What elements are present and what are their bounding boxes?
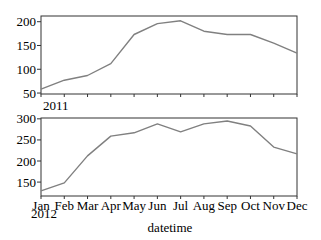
- x-tick-label: Mar: [77, 198, 99, 213]
- x-tick-label: May: [122, 198, 146, 213]
- y-tick-label: 150: [17, 175, 37, 190]
- y-tick-label: 300: [17, 111, 37, 126]
- plot-frame: [41, 118, 297, 196]
- y-tick-label: 100: [17, 62, 37, 77]
- x-tick-label: Feb: [55, 198, 75, 213]
- x-tick-label: Aug: [193, 198, 216, 213]
- x-tick-label: Oct: [241, 198, 260, 213]
- x-tick-label: Jul: [173, 198, 189, 213]
- y-tick-label: 150: [17, 38, 37, 53]
- data-series-line: [41, 121, 297, 191]
- x-tick-label: Nov: [263, 198, 286, 213]
- y-tick-label: 250: [17, 132, 37, 147]
- x-tick-label: Sep: [217, 198, 237, 213]
- year-label-2011: 2011: [43, 98, 69, 113]
- x-tick-label: Apr: [101, 198, 122, 213]
- y-tick-label: 200: [17, 14, 37, 29]
- year-label-2012: 2012: [31, 206, 57, 221]
- plot-frame: [41, 16, 297, 94]
- x-axis-title: datetime: [148, 220, 193, 235]
- y-tick-label: 200: [17, 154, 37, 169]
- y-tick-label: 50: [23, 86, 36, 101]
- chart-panel-2011: 50100150200: [17, 14, 298, 100]
- line-chart: 50100150200 150200250300JanFebMarAprMayJ…: [0, 0, 321, 240]
- x-tick-label: Dec: [287, 198, 308, 213]
- x-tick-label: Jun: [148, 198, 167, 213]
- chart-panel-2012: 150200250300JanFebMarAprMayJunJulAugSepO…: [17, 111, 308, 213]
- data-series-line: [41, 21, 297, 89]
